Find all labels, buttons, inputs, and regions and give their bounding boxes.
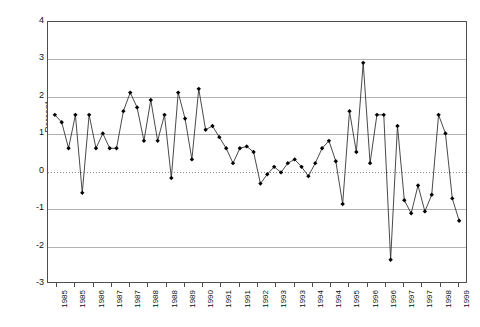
- x-tick-label: 1990: [206, 290, 216, 324]
- x-tick-label: 1987: [133, 290, 143, 324]
- x-tick-label: 1991: [224, 290, 234, 324]
- data-point-marker: [217, 135, 221, 139]
- x-tick-mark: [56, 283, 57, 287]
- x-tick-mark: [348, 283, 349, 287]
- x-tick-label: 1988: [151, 290, 161, 324]
- data-point-marker: [450, 196, 454, 200]
- data-point-marker: [203, 128, 207, 132]
- data-point-marker: [382, 113, 386, 117]
- x-tick-label: 1996: [389, 290, 399, 324]
- data-point-marker: [430, 193, 434, 197]
- x-tick-label: 1994: [316, 290, 326, 324]
- x-tick-mark: [184, 283, 185, 287]
- x-tick-mark: [147, 283, 148, 287]
- x-tick-mark: [421, 283, 422, 287]
- data-point-marker: [101, 131, 105, 135]
- data-point-marker: [443, 131, 447, 135]
- x-tick-mark: [239, 283, 240, 287]
- x-tick-label: 1989: [188, 290, 198, 324]
- x-tick-mark: [93, 283, 94, 287]
- data-point-marker: [197, 87, 201, 91]
- x-tick-mark: [129, 283, 130, 287]
- data-point-marker: [114, 146, 118, 150]
- data-point-marker: [347, 109, 351, 113]
- x-tick-label: 1993: [298, 290, 308, 324]
- x-tick-label: 1996: [371, 290, 381, 324]
- data-point-marker: [238, 146, 242, 150]
- data-point-marker: [457, 219, 461, 223]
- data-point-marker: [402, 198, 406, 202]
- chart-root: Percent 43210-1-2-3 19851985198619871987…: [0, 0, 480, 327]
- x-tick-mark: [74, 283, 75, 287]
- data-point-marker: [416, 183, 420, 187]
- x-tick-label: 1999: [462, 290, 472, 324]
- x-tick-label: 1993: [279, 290, 289, 324]
- x-tick-mark: [312, 283, 313, 287]
- x-tick-mark: [257, 283, 258, 287]
- data-point-marker: [395, 124, 399, 128]
- data-point-marker: [121, 109, 125, 113]
- data-point-marker: [142, 139, 146, 143]
- data-point-marker: [224, 146, 228, 150]
- x-tick-label: 1997: [407, 290, 417, 324]
- y-tick-label: 2: [26, 91, 44, 100]
- data-point-marker: [340, 202, 344, 206]
- data-point-marker: [149, 98, 153, 102]
- data-point-marker: [66, 146, 70, 150]
- y-tick-label: 1: [26, 128, 44, 137]
- x-tick-mark: [166, 283, 167, 287]
- data-point-marker: [155, 139, 159, 143]
- x-tick-label: 1985: [78, 290, 88, 324]
- data-point-marker: [409, 211, 413, 215]
- data-point-marker: [80, 191, 84, 195]
- x-tick-mark: [440, 283, 441, 287]
- data-point-marker: [231, 161, 235, 165]
- x-tick-mark: [367, 283, 368, 287]
- plot-area: [47, 21, 467, 283]
- x-tick-label: 1987: [115, 290, 125, 324]
- data-point-marker: [368, 161, 372, 165]
- x-axis-tick-labels: 1985198519861987198719881988198919901991…: [47, 288, 467, 327]
- x-tick-mark: [294, 283, 295, 287]
- data-point-marker: [176, 90, 180, 94]
- x-tick-label: 1998: [444, 290, 454, 324]
- data-point-marker: [436, 113, 440, 117]
- data-point-marker: [87, 113, 91, 117]
- x-tick-label: 1992: [261, 290, 271, 324]
- data-point-marker: [361, 61, 365, 65]
- data-point-marker: [94, 146, 98, 150]
- data-point-marker: [313, 161, 317, 165]
- x-tick-mark: [275, 283, 276, 287]
- x-tick-mark: [403, 283, 404, 287]
- x-tick-label: 1991: [243, 290, 253, 324]
- y-tick-label: 0: [26, 166, 44, 175]
- y-tick-label: 4: [26, 16, 44, 25]
- y-tick-label: 3: [26, 53, 44, 62]
- x-tick-mark: [202, 283, 203, 287]
- x-tick-mark: [330, 283, 331, 287]
- data-point-marker: [210, 124, 214, 128]
- data-point-marker: [183, 116, 187, 120]
- x-tick-mark: [220, 283, 221, 287]
- x-tick-label: 1985: [60, 290, 70, 324]
- data-point-marker: [190, 157, 194, 161]
- x-tick-label: 1988: [170, 290, 180, 324]
- y-tick-label: -3: [26, 278, 44, 287]
- data-point-marker: [334, 159, 338, 163]
- x-tick-mark: [111, 283, 112, 287]
- data-point-marker: [423, 209, 427, 213]
- y-tick-label: -2: [26, 241, 44, 250]
- x-tick-mark: [458, 283, 459, 287]
- data-point-marker: [162, 113, 166, 117]
- x-tick-label: 1986: [97, 290, 107, 324]
- data-series-percent: [48, 22, 466, 282]
- data-point-marker: [107, 146, 111, 150]
- x-tick-label: 1997: [425, 290, 435, 324]
- data-point-marker: [73, 113, 77, 117]
- x-tick-mark: [385, 283, 386, 287]
- data-point-marker: [135, 105, 139, 109]
- data-point-marker: [354, 150, 358, 154]
- y-axis-tick-labels: 43210-1-2-3: [22, 0, 44, 327]
- x-tick-label: 1995: [352, 290, 362, 324]
- y-tick-label: -1: [26, 203, 44, 212]
